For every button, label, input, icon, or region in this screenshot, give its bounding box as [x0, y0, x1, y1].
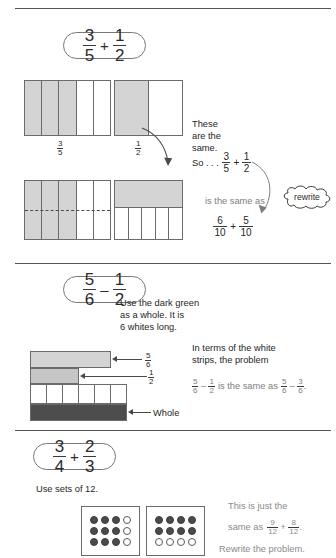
note-are-the: are the — [192, 130, 221, 142]
dot-filled — [101, 516, 109, 524]
dot-filled — [101, 527, 109, 535]
worksheet-page: 3 5 + 1 2 3 5 1 2 — [0, 0, 336, 558]
dot-filled — [101, 538, 109, 546]
fraction-nine-twelfths: 9 12 — [267, 519, 278, 536]
dot-empty — [177, 538, 185, 546]
denominator: 5 — [83, 45, 96, 64]
dot-filled — [177, 527, 185, 535]
strip-one-half — [30, 368, 79, 384]
instruction-line-2: as a whole. It is — [120, 309, 184, 321]
operator-minus: – — [287, 380, 297, 392]
dot-empty — [166, 538, 174, 546]
problem-pill-3: 3 4 + 2 3 — [33, 443, 116, 470]
bar-cell — [59, 81, 76, 135]
is-the-same-as-text: is the same as — [215, 380, 281, 392]
explanation-equation: 5 6 – 1 2 is the same as 5 6 – 3 6 . — [192, 378, 306, 395]
label-five-sixths: 5 6 — [145, 352, 151, 369]
divided-bottom-half — [115, 208, 182, 239]
bar-cell — [115, 208, 129, 239]
dot-grid — [155, 516, 197, 547]
dot-filled — [90, 516, 98, 524]
rewrite-callout[interactable]: rewrite — [281, 185, 333, 209]
bar-cell — [142, 208, 156, 239]
pointer-head-five-sixths — [112, 356, 117, 362]
dashed-split-line — [25, 210, 110, 211]
numerator: 1 — [113, 27, 126, 45]
strip-five-sixths — [30, 351, 111, 368]
instruction-line-3: 6 whites long. — [120, 321, 177, 333]
fraction-one-half: 1 2 — [113, 27, 126, 64]
dot-empty — [123, 516, 131, 524]
bar-cell — [77, 81, 94, 135]
fraction-two-thirds: 2 3 — [83, 438, 96, 475]
operator-plus: + — [96, 37, 113, 54]
strip-row-whites — [30, 384, 127, 404]
dot-empty — [188, 538, 196, 546]
same-as-prefix: same as — [228, 521, 263, 533]
bar-cell — [42, 81, 59, 135]
numerator: 3 — [83, 27, 96, 45]
problem-pill-1: 3 5 + 1 2 — [63, 32, 146, 59]
dot-filled — [155, 516, 163, 524]
dot-filled — [177, 516, 185, 524]
rewrite-label: rewrite — [294, 192, 320, 202]
fraction-five-sixths: 5 6 — [83, 271, 96, 308]
explanation3-rewrite-prompt: Rewrite the problem. — [219, 543, 305, 555]
shaded-top-half — [115, 181, 182, 208]
operator-plus: + — [66, 448, 83, 465]
explanation3-equation: same as 9 12 + 8 12 . — [228, 519, 302, 536]
dot-grid — [90, 516, 132, 547]
white-unit — [62, 385, 78, 403]
explanation3-line-1: This is just the — [228, 500, 287, 512]
operator-minus: – — [96, 281, 112, 298]
arrow-halves-to-tenths — [120, 118, 200, 180]
white-unit — [110, 385, 126, 403]
label-one-half-strip: 1 2 — [148, 369, 154, 386]
period: . — [304, 380, 307, 392]
dot-set-three-fourths — [81, 506, 140, 556]
label-whole: Whole — [153, 407, 179, 419]
section-divider-middle — [15, 263, 331, 264]
white-unit — [46, 385, 62, 403]
bar-cell — [129, 208, 143, 239]
explanation-line-2: strips, the problem — [192, 354, 268, 366]
dot-filled — [188, 527, 196, 535]
pointer-head-one-half — [80, 373, 85, 379]
denominator: 2 — [113, 45, 126, 64]
instruction-line-1: Use the dark green — [120, 297, 199, 309]
explanation-line-1: In terms of the white — [192, 342, 276, 354]
operator-plus: + — [227, 221, 239, 233]
white-unit — [78, 385, 94, 403]
bar-model-three-fifths — [24, 80, 111, 136]
strip-whole-dark-green — [30, 404, 127, 421]
section-divider-top — [15, 8, 331, 9]
pointer-line-one-half — [85, 376, 147, 377]
dot-filled — [188, 516, 196, 524]
fraction-three-fifths: 3 5 — [83, 27, 96, 64]
dot-empty — [155, 538, 163, 546]
pointer-line-whole — [133, 412, 151, 413]
so-prefix: So . . . — [192, 157, 219, 169]
bar-cell — [156, 208, 170, 239]
dot-empty — [123, 527, 131, 535]
operator-minus: – — [198, 380, 208, 392]
dot-empty — [123, 538, 131, 546]
fraction-six-tenths: 6 10 — [213, 216, 227, 238]
period: . — [299, 521, 302, 533]
white-unit — [94, 385, 110, 403]
bar-model-five-tenths — [114, 180, 183, 240]
bar-cell — [169, 208, 182, 239]
dot-filled — [90, 527, 98, 535]
dot-filled — [155, 527, 163, 535]
pointer-line-five-sixths — [117, 359, 142, 360]
fraction-eight-twelfths: 8 12 — [288, 519, 299, 536]
dot-filled — [112, 538, 120, 546]
note-so-equation: So . . . 3 5 + 1 2 — [192, 152, 251, 174]
dot-filled — [90, 538, 98, 546]
instruction-use-sets-of-12: Use sets of 12. — [36, 483, 98, 495]
section-divider-bottom — [15, 430, 331, 431]
bar-cell — [25, 81, 42, 135]
operator-plus: + — [278, 521, 288, 533]
fraction-three-fifths-small: 3 5 — [222, 152, 231, 174]
dot-filled — [166, 516, 174, 524]
